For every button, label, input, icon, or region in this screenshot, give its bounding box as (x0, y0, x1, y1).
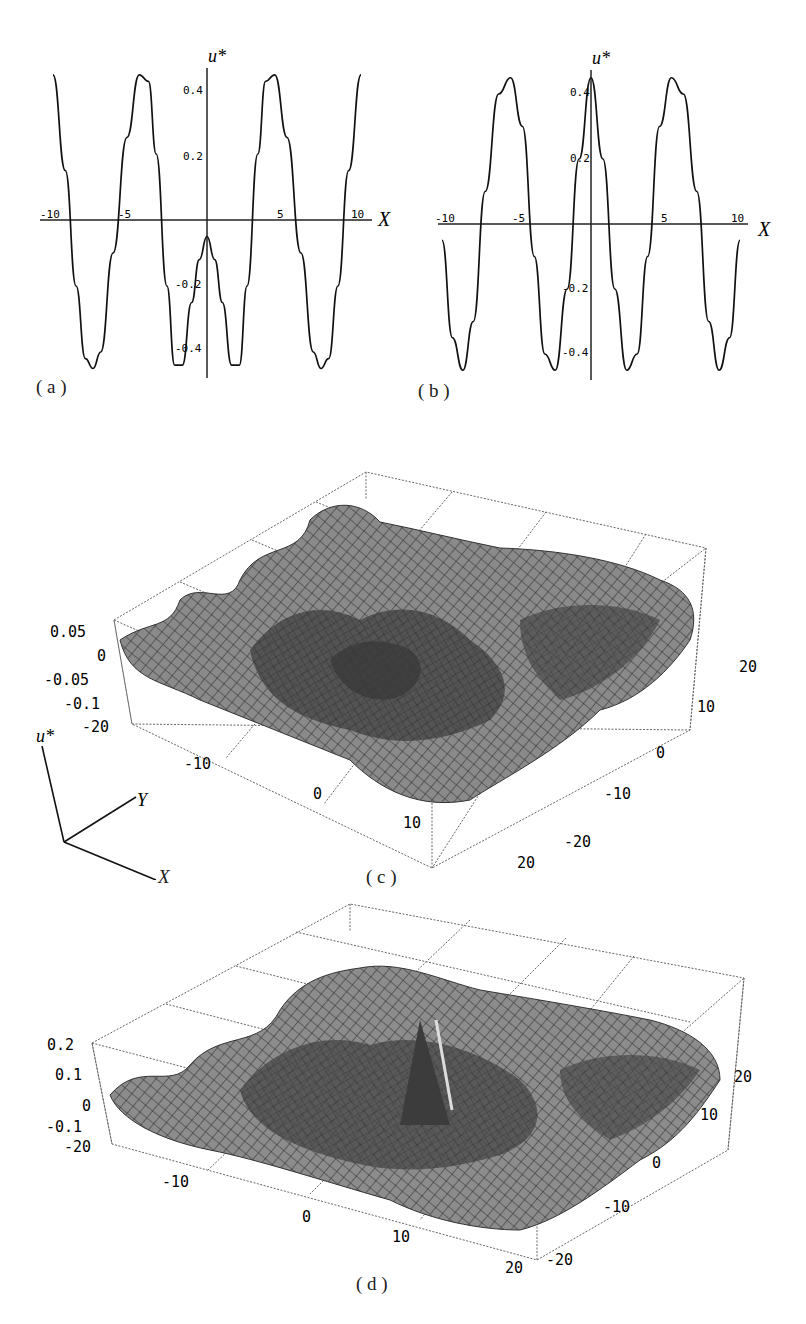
x-tick: 10 (392, 1228, 410, 1246)
y-tick: -20 (564, 833, 591, 851)
y-tick: -10 (604, 785, 631, 803)
x-tick: 20 (517, 854, 535, 872)
y-corner-tick: -20 (82, 718, 109, 736)
x-tick: 5 (661, 212, 668, 225)
z-tick: -0.05 (44, 671, 89, 689)
x-axis-label: X (757, 218, 771, 240)
x-tick: 10 (403, 814, 421, 832)
y-tick: 20 (739, 658, 757, 676)
z-tick: 0 (97, 647, 106, 665)
z-tick: 0.1 (55, 1066, 82, 1084)
chart-a: -10 -5 5 10 0.4 0.2 -0.2 -0.4 u* X (0, 0, 400, 420)
x-tick: -10 (184, 755, 211, 773)
chart-d: 0.2 0.1 0 -0.1 -20 -10 0 10 20 20 10 0 -… (0, 900, 806, 1324)
z-tick: -0.1 (46, 1118, 82, 1136)
chart-c: 0.05 0 -0.05 -0.1 -20 -10 0 10 20 20 10 … (0, 460, 806, 880)
y-tick: 0.2 (570, 152, 590, 165)
y-tick: 10 (700, 1106, 718, 1124)
caption-b: ( b ) (418, 380, 450, 402)
chart-c-plot: 0.05 0 -0.05 -0.1 -20 -10 0 10 20 20 10 … (0, 460, 806, 880)
x-tick: -10 (435, 212, 455, 225)
legend-y-label: Y (137, 790, 149, 810)
z-tick: 0 (82, 1097, 91, 1115)
y-tick: -0.2 (175, 278, 202, 291)
y-tick: 0 (656, 744, 665, 762)
y-tick: 0.2 (183, 150, 203, 163)
y-tick: 0.4 (570, 86, 590, 99)
caption-a: ( a ) (36, 376, 67, 398)
y-axis-label: u* (208, 46, 226, 66)
x-tick: 20 (505, 1259, 523, 1277)
x-tick: 5 (277, 208, 284, 221)
x-axis-label: X (377, 208, 391, 230)
z-tick: 0.05 (50, 623, 86, 641)
x-tick: 10 (351, 208, 364, 221)
x-tick: -10 (162, 1173, 189, 1191)
x-tick: -5 (118, 208, 131, 221)
x-tick: 0 (302, 1208, 311, 1226)
y-axis-label: u* (592, 48, 610, 68)
y-tick: -0.4 (562, 346, 589, 359)
y-tick: 0 (652, 1154, 661, 1172)
z-tick: 0.2 (47, 1036, 74, 1054)
y-tick: -10 (603, 1198, 630, 1216)
y-tick: 0.4 (183, 84, 203, 97)
y-tick: -0.4 (175, 342, 202, 355)
x-tick: -10 (40, 208, 60, 221)
chart-b: -10 -5 5 10 0.4 0.2 -0.2 -0.4 u* X (400, 0, 806, 420)
x-tick: -5 (512, 212, 525, 225)
x-tick: 0 (313, 785, 322, 803)
axis-orientation-legend (42, 746, 156, 880)
chart-a-plot: -10 -5 5 10 0.4 0.2 -0.2 -0.4 u* X (0, 0, 400, 420)
y-tick: 10 (697, 698, 715, 716)
y-tick: -0.2 (562, 282, 589, 295)
y-tick: 20 (734, 1068, 752, 1086)
caption-d: ( d ) (356, 1273, 388, 1295)
legend-z-label: u* (36, 726, 54, 746)
y-tick: -20 (546, 1251, 573, 1269)
chart-d-plot: 0.2 0.1 0 -0.1 -20 -10 0 10 20 20 10 0 -… (0, 900, 806, 1324)
x-tick: 10 (731, 212, 744, 225)
legend-x-label: X (158, 866, 170, 888)
z-tick: -0.1 (64, 695, 100, 713)
caption-c: ( c ) (366, 866, 397, 888)
chart-b-plot: -10 -5 5 10 0.4 0.2 -0.2 -0.4 u* X (400, 0, 806, 420)
y-corner-tick: -20 (64, 1138, 91, 1156)
